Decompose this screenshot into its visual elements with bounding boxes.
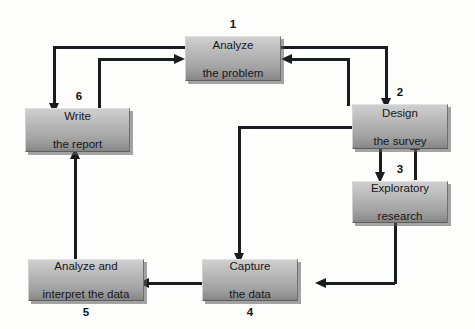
node-write-the-report-label: Writethe report [47,109,108,151]
connector-2-to-4-vertical [238,126,241,258]
node-analyze-and-interpret-the-data-label: Analyze andinterpret the data [37,259,136,301]
node-analyze-the-problem-label: Analyzethe problem [197,38,270,80]
node-label-line1: Exploratory [368,181,432,195]
node-label-line1: Analyze [200,38,267,52]
connector-4-to-5-horizontal [148,282,202,285]
node-label-line2: interpret the data [40,287,133,301]
connector-3-to-4-horizontal [325,282,395,285]
node-label-line1: Design [370,106,429,120]
node-capture-the-data[interactable]: Capturethe data [202,259,298,301]
node-number-2: 2 [389,86,411,98]
node-number-6: 6 [68,90,90,102]
connector-1-to-2-horizontal [281,46,388,49]
node-write-the-report[interactable]: Writethe report [25,108,130,152]
connector-6-to-1-vertical [98,58,101,111]
connector-1-to-6-vertical [53,46,56,108]
node-label-line2: the problem [200,66,267,80]
connector-5-to-6-vertical [74,152,77,262]
node-label-line2: the report [50,137,105,151]
connector-2-to-1-vertical [347,58,350,106]
connector-3-to-4-arrowhead [315,278,326,288]
node-exploratory-research-label: Exploratoryresearch [365,181,435,223]
node-design-the-survey[interactable]: Designthe survey [352,104,448,149]
flowchart-canvas: Analyzethe problem 1 Designthe survey 2 … [0,0,475,329]
connector-6-to-1-horizontal [98,58,176,61]
node-analyze-and-interpret-the-data[interactable]: Analyze andinterpret the data [28,259,144,301]
node-number-4: 4 [239,306,261,318]
connector-1-to-6-horizontal [53,46,185,49]
connector-2-to-1-arrowhead [281,54,292,64]
node-analyze-the-problem[interactable]: Analyzethe problem [185,36,281,81]
connector-2-to-1-horizontal [291,58,348,61]
node-label-line1: Analyze and [40,259,133,273]
node-capture-the-data-label: Capturethe data [223,259,277,301]
node-design-the-survey-label: Designthe survey [367,106,432,148]
node-label-line1: Capture [226,259,274,273]
node-number-5: 5 [75,306,97,318]
node-number-1: 1 [222,18,244,30]
node-label-line2: the data [226,287,274,301]
node-label-line1: Write [50,109,105,123]
connector-2-to-4-horizontal [238,126,352,129]
connector-1-to-2-vertical [385,46,388,104]
connector-6-to-1-arrowhead [174,54,185,64]
connector-3-to-4-vertical [394,222,397,284]
node-number-3: 3 [389,163,411,175]
node-exploratory-research[interactable]: Exploratoryresearch [352,181,448,223]
node-label-line2: research [368,209,432,223]
node-label-line2: the survey [370,134,429,148]
